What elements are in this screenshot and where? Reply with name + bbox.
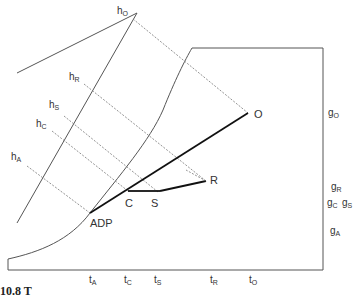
- enthalpy-label-c: hC: [36, 118, 47, 130]
- temp-label-s: tS: [154, 274, 162, 286]
- enthalpy-line-c: [52, 131, 128, 191]
- enthalpy-label-o: hO: [117, 5, 129, 17]
- line-adp-o: [90, 113, 248, 213]
- enthalpy-axis-visible: [17, 13, 137, 223]
- moisture-label-c: gC: [327, 197, 338, 209]
- enthalpy-label-a: hA: [11, 151, 22, 163]
- enthalpy-label-s: hS: [49, 99, 60, 111]
- point-label-o: O: [254, 108, 263, 120]
- temp-label-a: tA: [89, 274, 97, 286]
- moisture-label-r: gR: [331, 181, 342, 193]
- moisture-label-a: gA: [330, 225, 341, 237]
- temp-label-r: tR: [210, 274, 218, 286]
- enthalpy-line-o: [133, 19, 248, 113]
- figure-caption: 10.8 T: [0, 284, 32, 295]
- temp-label-o: tO: [249, 274, 258, 286]
- enthalpy-label-r: hR: [69, 71, 80, 83]
- enthalpy-line-s: [64, 116, 158, 192]
- point-label-s: S: [151, 197, 158, 209]
- point-label-r: R: [210, 174, 218, 186]
- line-r-c-thin: [186, 170, 206, 181]
- point-label-adp: ADP: [90, 217, 113, 229]
- temp-label-c: tC: [124, 274, 132, 286]
- line-s-r: [160, 181, 206, 191]
- chart-frame: [8, 48, 323, 270]
- psychrometric-diagram: O R C S ADP hO hR hS hC hA tA tC tS tR t…: [0, 0, 359, 295]
- moisture-label-o: gO: [328, 107, 340, 119]
- enthalpy-line-r: [84, 84, 206, 181]
- enthalpy-scale-line: [17, 13, 137, 73]
- moisture-label-s: gS: [342, 197, 353, 209]
- point-label-c: C: [125, 197, 133, 209]
- process-lines: [90, 113, 248, 213]
